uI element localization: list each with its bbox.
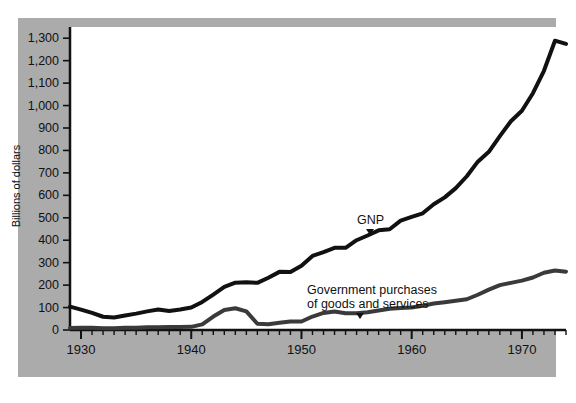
series-pointer-government-icon xyxy=(356,313,364,319)
series-pointer-gnp-icon xyxy=(366,229,374,235)
chart-plot xyxy=(0,0,576,403)
x-axis-ticks xyxy=(81,330,566,339)
series-label-government-line2: of goods and services xyxy=(307,297,437,311)
series-label-government-line1: Government purchases xyxy=(307,283,437,297)
series-label-gnp: GNP xyxy=(357,213,384,227)
chart-figure: Billions of dollars 1,3001,2001,1001,000… xyxy=(0,0,576,403)
series-label-government: Government purchases of goods and servic… xyxy=(307,283,437,312)
series-line-gnp xyxy=(70,41,566,318)
